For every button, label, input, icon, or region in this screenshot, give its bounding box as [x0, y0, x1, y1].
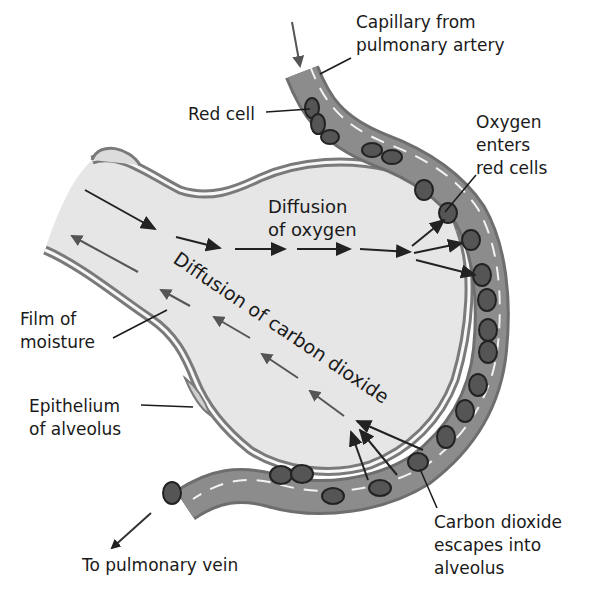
red-cell — [479, 319, 497, 341]
label-co2-escapes: Carbon dioxide escapes into alveolus — [434, 512, 567, 578]
red-cell — [479, 341, 497, 363]
red-cell — [321, 130, 339, 144]
label-film-of-moisture: Film of moisture — [20, 309, 95, 352]
red-cell — [473, 264, 491, 286]
red-cell — [437, 426, 455, 448]
red-cell — [415, 180, 433, 200]
leader-capillary — [320, 58, 351, 74]
red-cell — [311, 114, 325, 134]
red-cell — [478, 289, 496, 311]
red-cell — [322, 488, 344, 504]
venous-outflow-arrow — [112, 513, 151, 548]
label-oxygen-enters: Oxygen enters red cells — [476, 112, 548, 178]
label-capillary-from-artery: Capillary from pulmonary artery — [356, 12, 504, 55]
red-cell — [408, 453, 428, 471]
red-cell — [362, 143, 382, 157]
leader-epithelium — [141, 405, 193, 407]
label-red-cell: Red cell — [188, 104, 255, 124]
red-cell — [369, 480, 391, 496]
arterial-inflow-arrow — [292, 22, 300, 66]
alveolus-gas-exchange-diagram: Capillary from pulmonary artery Red cell… — [0, 0, 598, 596]
red-cell — [469, 374, 487, 396]
label-epithelium: Epithelium of alveolus — [29, 396, 125, 439]
red-cell — [270, 466, 292, 484]
red-cell — [456, 400, 474, 422]
red-cell — [291, 465, 313, 483]
label-to-pulmonary-vein: To pulmonary vein — [81, 555, 238, 575]
red-cell — [439, 203, 457, 223]
red-cell — [382, 150, 402, 164]
red-cell — [462, 230, 480, 250]
red-cell — [163, 482, 181, 504]
